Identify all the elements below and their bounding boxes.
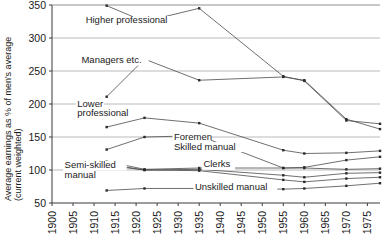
- data-point-2-2: [198, 122, 200, 124]
- data-point-2-4: [303, 152, 305, 154]
- data-point-7-6: [379, 182, 381, 184]
- x-tick-label-1950: 1950: [256, 211, 268, 235]
- x-tick-label-1955: 1955: [277, 211, 289, 235]
- x-tick-label-1960: 1960: [298, 211, 310, 235]
- data-point-1-5: [345, 118, 347, 120]
- data-point-1-2: [198, 79, 200, 81]
- x-tick-label-1965: 1965: [319, 211, 331, 235]
- data-point-4-3: [282, 167, 284, 169]
- y-tick-label-150: 150: [28, 131, 46, 143]
- data-point-4-5: [345, 168, 347, 170]
- data-point-5-3: [282, 174, 284, 176]
- series-label-skilled-manual: Skilled manual: [174, 141, 236, 152]
- y-tick-label-200: 200: [28, 98, 46, 110]
- x-tick-label-1910: 1910: [88, 211, 100, 235]
- data-point-2-6: [379, 150, 381, 152]
- data-point-2-0: [105, 126, 107, 128]
- data-point-7-5: [345, 185, 347, 187]
- x-tick-label-1930: 1930: [172, 211, 184, 235]
- data-point-6-6: [379, 176, 381, 178]
- x-tick-label-1905: 1905: [67, 211, 79, 235]
- x-tick-label-1935: 1935: [193, 211, 205, 235]
- data-point-2-3: [282, 149, 284, 151]
- data-point-7-0: [105, 189, 107, 191]
- data-point-5-5: [345, 172, 347, 174]
- y-tick-label-250: 250: [28, 65, 46, 77]
- data-point-4-6: [379, 167, 381, 169]
- data-point-1-6: [379, 128, 381, 130]
- y-tick-label-50: 50: [34, 197, 46, 209]
- data-point-3-5: [345, 159, 347, 161]
- x-tick-label-1940: 1940: [214, 211, 226, 235]
- data-point-7-4: [303, 187, 305, 189]
- data-point-2-1: [143, 117, 145, 119]
- x-tick-label-1925: 1925: [151, 211, 163, 235]
- data-point-0-0: [105, 4, 107, 6]
- x-tick-label-1975: 1975: [361, 211, 373, 235]
- data-point-1-0: [105, 96, 107, 98]
- x-tick-label-1915: 1915: [109, 211, 121, 235]
- data-point-6-4: [303, 181, 305, 183]
- series-label-higher-professional: Higher professional: [86, 14, 168, 25]
- data-point-6-1: [143, 169, 145, 171]
- data-point-0-2: [198, 7, 200, 9]
- data-point-3-6: [379, 156, 381, 158]
- data-point-6-2: [198, 169, 200, 171]
- data-point-7-1: [143, 187, 145, 189]
- series-label-unskilled-manual: Unskilled manual: [195, 181, 267, 192]
- y-tick-label-100: 100: [28, 164, 46, 176]
- y-tick-label-350: 350: [28, 0, 46, 11]
- x-tick-label-1920: 1920: [130, 211, 142, 235]
- series-label-semi-skilled-manual: manual: [65, 169, 96, 180]
- data-point-7-3: [282, 188, 284, 190]
- y-axis-title-line-1: Average earnings as % of men's average: [3, 37, 13, 201]
- series-label-lower-professional: professional: [77, 107, 128, 118]
- data-point-0-6: [379, 123, 381, 125]
- data-point-5-6: [379, 171, 381, 173]
- x-tick-label-1970: 1970: [340, 211, 352, 235]
- data-point-3-0: [105, 148, 107, 150]
- data-point-1-4: [303, 79, 305, 81]
- y-tick-label-300: 300: [28, 32, 46, 44]
- line-chart: 50100150200250300350 1900190519101915192…: [0, 0, 386, 245]
- data-point-5-4: [303, 176, 305, 178]
- data-point-1-3: [282, 76, 284, 78]
- data-point-6-3: [282, 179, 284, 181]
- x-tick-label-1945: 1945: [235, 211, 247, 235]
- data-point-3-1: [143, 136, 145, 138]
- y-axis-title-line-2: (current weighted): [13, 128, 23, 201]
- series-label-clerks: Clerks: [203, 158, 230, 169]
- data-point-2-5: [345, 152, 347, 154]
- chart-container: 50100150200250300350 1900190519101915192…: [0, 0, 386, 245]
- x-tick-label-1900: 1900: [46, 211, 58, 235]
- data-point-6-5: [345, 177, 347, 179]
- series-label-managers-etc-: Managers etc.: [81, 54, 141, 65]
- data-point-4-4: [303, 167, 305, 169]
